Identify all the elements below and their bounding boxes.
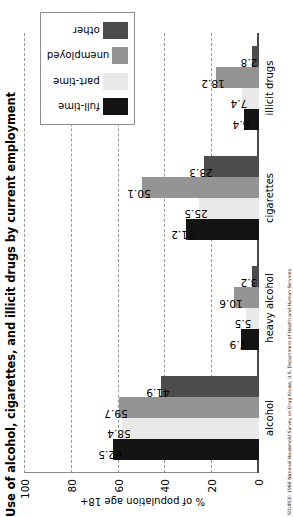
chart-figure: Use of alcohol, cigarettes, and illicit … bbox=[0, 0, 293, 517]
bar-value-label: 3.2 bbox=[240, 277, 257, 289]
bar-value-label: 5.5 bbox=[235, 318, 252, 330]
y-tick-label: 60 bbox=[113, 479, 125, 492]
bar[interactable]: 3.2 bbox=[252, 266, 259, 287]
legend-item-label: part-time bbox=[53, 76, 100, 87]
legend-item-label: other bbox=[73, 25, 100, 36]
category-label: illicit drugs bbox=[264, 33, 275, 143]
chart-title: Use of alcohol, cigarettes, and illicit … bbox=[4, 7, 18, 517]
bar-value-label: 41.9 bbox=[146, 387, 169, 399]
legend-swatch bbox=[103, 73, 128, 90]
bar[interactable]: 31.2 bbox=[186, 219, 259, 240]
bar-value-label: 7.9 bbox=[229, 339, 246, 351]
y-axis-title-label: % of population age 18+ bbox=[80, 497, 205, 508]
bar[interactable]: 41.9 bbox=[161, 376, 259, 397]
y-tick-label: 40 bbox=[159, 479, 171, 492]
bar-slot: 62.5 bbox=[25, 439, 259, 460]
bar-slot: 5.5 bbox=[25, 308, 259, 329]
legend-swatch bbox=[103, 98, 128, 115]
bar-group-bars: 62.558.459.741.9 bbox=[25, 363, 259, 473]
legend-item-label: full-time bbox=[58, 101, 100, 112]
bar-slot: 7.9 bbox=[25, 329, 259, 350]
bar-value-label: 2.8 bbox=[241, 57, 258, 69]
bar-value-label: 62.5 bbox=[98, 449, 121, 461]
bar-group: 7.95.510.63.2heavy alcohol bbox=[25, 253, 259, 363]
bar-slot: 59.7 bbox=[25, 397, 259, 418]
bar-group-bars: 7.95.510.63.2 bbox=[25, 253, 259, 363]
bar-slot: 50.1 bbox=[25, 177, 259, 198]
bar[interactable]: 18.2 bbox=[216, 67, 259, 88]
bar-slot: 10.6 bbox=[25, 287, 259, 308]
bar-value-label: 7.4 bbox=[230, 98, 247, 110]
bar-slot: 3.2 bbox=[25, 266, 259, 287]
bar[interactable]: 50.1 bbox=[142, 177, 259, 198]
bar-slot: 31.2 bbox=[25, 219, 259, 240]
legend-item[interactable]: unemployed bbox=[47, 47, 128, 64]
legend: full-timepart-timeunemployedother bbox=[40, 12, 135, 125]
bar-slot: 25.5 bbox=[25, 198, 259, 219]
bar[interactable]: 62.5 bbox=[113, 439, 259, 460]
bar[interactable]: 10.6 bbox=[234, 287, 259, 308]
bar-value-label: 6.4 bbox=[233, 119, 250, 131]
legend-swatch bbox=[112, 47, 128, 64]
bar-value-label: 59.7 bbox=[105, 408, 128, 420]
bar[interactable]: 5.5 bbox=[246, 308, 259, 329]
bar-slot: 41.9 bbox=[25, 376, 259, 397]
bar-slot: 58.4 bbox=[25, 418, 259, 439]
legend-item-label: unemployed bbox=[47, 50, 109, 61]
category-label: heavy alcohol bbox=[264, 253, 275, 363]
bar[interactable]: 59.7 bbox=[119, 397, 259, 418]
bar-value-label: 50.1 bbox=[127, 188, 150, 200]
category-label: alcohol bbox=[264, 363, 275, 473]
y-tick-label: 0 bbox=[253, 479, 265, 486]
bar-group: 31.225.550.123.3cigarettes bbox=[25, 143, 259, 253]
bar[interactable]: 2.8 bbox=[252, 46, 259, 67]
y-tick-label: 100 bbox=[19, 479, 31, 499]
legend-item[interactable]: full-time bbox=[47, 98, 128, 115]
bar-value-label: 18.2 bbox=[202, 78, 225, 90]
bar[interactable]: 7.4 bbox=[242, 88, 259, 109]
y-tick-label: 20 bbox=[206, 479, 218, 492]
bar-value-label: 58.4 bbox=[108, 428, 131, 440]
bar-group-bars: 31.225.550.123.3 bbox=[25, 143, 259, 253]
source-note: SOURCE: 1998 National Household Survey o… bbox=[287, 3, 292, 515]
bar-value-label: 23.3 bbox=[190, 167, 213, 179]
bar[interactable]: 58.4 bbox=[122, 418, 259, 439]
y-axis-title: % of population age 18+ bbox=[25, 495, 259, 509]
figure-rotation-wrapper: Use of alcohol, cigarettes, and illicit … bbox=[0, 0, 293, 517]
legend-item[interactable]: other bbox=[47, 22, 128, 39]
bar[interactable]: 23.3 bbox=[204, 156, 259, 177]
bar-value-label: 25.5 bbox=[185, 208, 208, 220]
bar[interactable]: 6.4 bbox=[244, 109, 259, 130]
y-tick-label: 80 bbox=[66, 479, 78, 492]
category-label: cigarettes bbox=[264, 143, 275, 253]
bar[interactable]: 7.9 bbox=[241, 329, 259, 350]
legend-item[interactable]: part-time bbox=[47, 73, 128, 90]
bar-slot: 23.3 bbox=[25, 156, 259, 177]
bar-value-label: 10.6 bbox=[220, 298, 243, 310]
bar-group: 62.558.459.741.9alcohol bbox=[25, 363, 259, 473]
bar[interactable]: 25.5 bbox=[199, 198, 259, 219]
legend-swatch bbox=[103, 22, 128, 39]
bar-value-label: 31.2 bbox=[171, 229, 194, 241]
